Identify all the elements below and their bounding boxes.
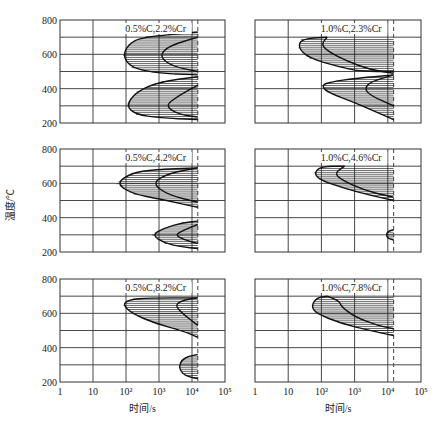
y-tick-label: 600 xyxy=(42,308,57,319)
y-tick-label: 400 xyxy=(42,213,57,224)
panel-title: 0.5%C,8.2%Cr xyxy=(125,282,187,293)
cct-panel-4: 1.0%C,4.6%Cr xyxy=(255,149,421,252)
x-tick-label: 10⁵ xyxy=(218,386,232,397)
x-tick-label: 10² xyxy=(315,386,328,397)
transformation-finish-curve xyxy=(327,296,393,329)
y-tick-label: 800 xyxy=(42,144,57,155)
x-tick-label: 10 xyxy=(88,386,98,397)
cct-figure: 0.5%C,2.2%Cr8006004002001.0%C,2.3%Cr0.5%… xyxy=(0,0,442,427)
x-tick-label: 10⁴ xyxy=(381,386,395,397)
y-tick-label: 800 xyxy=(42,15,57,26)
panel-title: 1.0%C,4.6%Cr xyxy=(321,152,383,163)
y-tick-label: 600 xyxy=(42,178,57,189)
panel-title: 1.0%C,7.8%Cr xyxy=(321,282,383,293)
panel-title: 1.0%C,2.3%Cr xyxy=(321,23,383,34)
transformation-finish-curve xyxy=(323,37,394,73)
cct-panel-2: 1.0%C,2.3%Cr xyxy=(255,20,421,123)
x-tick-label: 10³ xyxy=(153,386,166,397)
cct-panel-1: 0.5%C,2.2%Cr800600400200 xyxy=(42,15,225,129)
x-axis-label: 时间/s xyxy=(325,402,352,414)
x-tick-label: 10⁴ xyxy=(185,386,199,397)
x-tick-label: 10² xyxy=(120,386,133,397)
x-axis-label: 时间/s xyxy=(129,402,156,414)
x-tick-label: 10³ xyxy=(348,386,361,397)
panel-title: 0.5%C,4.2%Cr xyxy=(125,152,187,163)
y-tick-label: 400 xyxy=(42,343,57,354)
y-tick-label: 200 xyxy=(42,247,57,258)
x-tick-label: 1 xyxy=(58,386,63,397)
y-tick-label: 600 xyxy=(42,49,57,60)
x-tick-label: 10⁵ xyxy=(414,386,428,397)
cct-panel-6: 1.0%C,7.8%Cr11010²10³10⁴10⁵时间/s xyxy=(253,279,428,414)
y-tick-label: 400 xyxy=(42,84,57,95)
cct-panel-5: 0.5%C,8.2%Cr80060040020011010²10³10⁴10⁵时… xyxy=(42,274,232,414)
transformation-start-curve xyxy=(180,355,198,379)
y-tick-label: 200 xyxy=(42,118,57,129)
transformation-finish-curve xyxy=(177,225,198,244)
y-axis-label: 温度/℃ xyxy=(4,189,16,222)
x-tick-label: 1 xyxy=(253,386,258,397)
x-tick-label: 10 xyxy=(283,386,293,397)
y-tick-label: 200 xyxy=(42,377,57,388)
y-tick-label: 800 xyxy=(42,274,57,285)
cct-panel-3: 0.5%C,4.2%Cr800600400200 xyxy=(42,144,225,258)
panel-title: 0.5%C,2.2%Cr xyxy=(125,23,187,34)
